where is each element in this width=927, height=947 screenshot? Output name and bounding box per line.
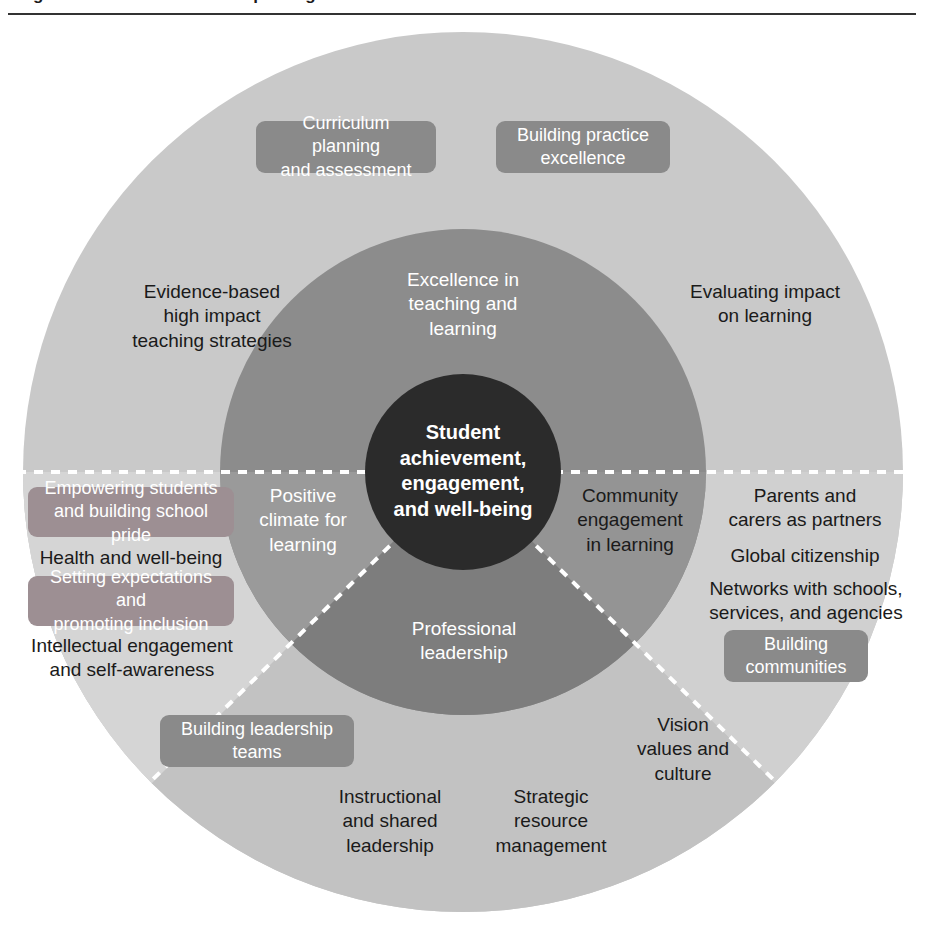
text-evidence-based-teaching: Evidence-based high impact teaching stra… [86, 280, 338, 353]
inner-label-community-engagement: Community engagement in learning [550, 484, 710, 557]
text-vision-values-culture: Vision values and culture [613, 713, 753, 786]
text-strategic-resource-management: Strategic resource management [482, 785, 620, 858]
text-parents-and-carers: Parents and carers as partners [700, 484, 910, 533]
text-networks-with-schools: Networks with schools, services, and age… [692, 577, 920, 626]
text-global-citizenship: Global citizenship [700, 544, 910, 568]
pill-setting-expectations[interactable]: Setting expectations and promoting inclu… [28, 576, 234, 626]
inner-label-excellence: Excellence in teaching and learning [363, 268, 563, 341]
page-heading-text: Figure: The framework for improving stud… [18, 0, 467, 5]
framework-circle-diagram: Student achievement, engagement, and wel… [0, 22, 927, 947]
pill-empowering-students[interactable]: Empowering students and building school … [28, 487, 234, 537]
text-intellectual-engagement: Intellectual engagement and self-awarene… [10, 634, 254, 683]
pill-building-communities[interactable]: Building communities [724, 630, 868, 682]
text-instructional-shared-leadership: Instructional and shared leadership [316, 785, 464, 858]
pill-building-practice-excellence[interactable]: Building practice excellence [496, 121, 670, 173]
pill-building-leadership-teams[interactable]: Building leadership teams [160, 715, 354, 767]
core-label: Student achievement, engagement, and wel… [343, 420, 583, 522]
inner-label-positive-climate: Positive climate for learning [228, 484, 378, 557]
text-evaluating-impact: Evaluating impact on learning [660, 280, 870, 329]
page-heading-clipped: Figure: The framework for improving stud… [0, 0, 927, 7]
inner-label-professional-leadership: Professional leadership [378, 617, 550, 666]
header-divider-rule [8, 13, 916, 15]
pill-curriculum-planning[interactable]: Curriculum planning and assessment [256, 121, 436, 173]
